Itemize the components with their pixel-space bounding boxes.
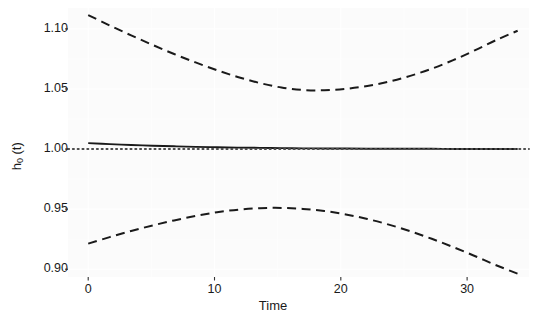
- ytick-label: 1.05: [22, 81, 68, 95]
- panel-background: [68, 8, 529, 277]
- ytick-label: 0.95: [22, 201, 68, 215]
- ytick-label: 1.00: [22, 141, 68, 155]
- y-axis-title-subscript: 0: [15, 158, 25, 163]
- chart-container: 1.10 1.05 1.00 0.95 0.90 0 10 20 30 Time…: [0, 0, 546, 323]
- xtick-label: 0: [68, 282, 108, 296]
- xtick-label: 10: [195, 282, 235, 296]
- ytick-label: 1.10: [22, 21, 68, 35]
- ytick-label: 0.90: [22, 261, 68, 275]
- x-axis-title: Time: [0, 298, 546, 313]
- xtick-label: 20: [321, 282, 361, 296]
- y-axis-title-tail: (t): [9, 142, 24, 158]
- xtick-label: 30: [447, 282, 487, 296]
- y-axis-title-base: h: [9, 163, 24, 170]
- plot-area: [0, 0, 546, 323]
- y-axis-title: h0 (t): [9, 126, 26, 186]
